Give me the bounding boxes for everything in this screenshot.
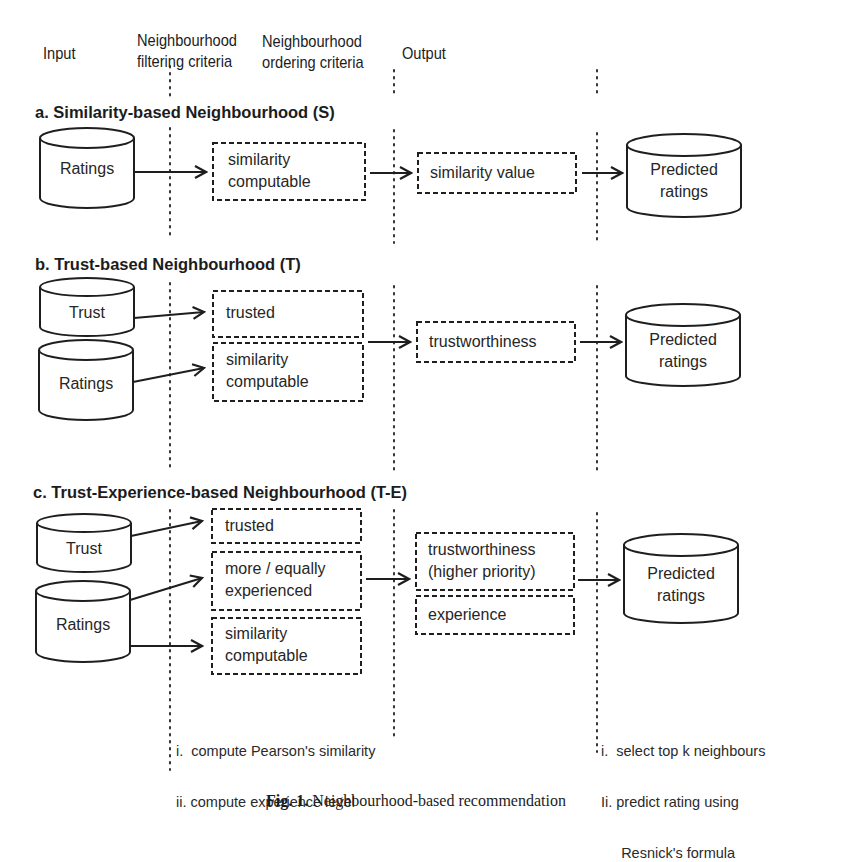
section-title-c: c. Trust-Experience-based Neighbourhood … [33,482,407,502]
output-line: Predicted [626,329,740,351]
column-header-filtering-line2: filtering criteria [137,51,237,72]
input-ratings-b: Ratings [39,373,133,395]
note-line: i. compute Pearson's similarity [176,743,375,760]
column-header-ordering-line2: ordering criteria [262,52,364,73]
note-line: Ii. predict rating using [601,794,765,811]
column-header-input: Input [43,43,76,64]
filter-trusted-c: trusted [225,515,274,537]
filter-similarity-computable-c: similarity computable [225,623,308,667]
filter-line: similarity [228,149,311,171]
output-line: ratings [626,351,740,373]
section-title-a: a. Similarity-based Neighbourhood (S) [35,102,335,122]
filter-line: similarity [226,349,309,371]
column-header-filtering-line1: Neighbourhood [137,30,237,51]
filter-line: similarity [225,623,308,645]
filter-trusted-b: trusted [226,302,275,324]
note-line: Resnick's formula [601,845,765,862]
ordering-line: (higher priority) [428,561,536,583]
filter-similarity-computable-a: similarity computable [228,149,311,193]
filter-line: computable [226,371,309,393]
input-ratings-a: Ratings [40,158,134,180]
input-ratings-c: Ratings [36,614,130,636]
ordering-experience-c: experience [428,604,506,626]
ordering-trustworthiness-b: trustworthiness [429,331,537,353]
input-trust-b: Trust [40,302,134,324]
column-header-ordering: Neighbourhood ordering criteria [262,31,364,73]
output-predicted-ratings-b: Predicted ratings [626,329,740,373]
figure-caption: Fig. 1. Neighbourhood-based recommendati… [266,792,566,810]
output-line: ratings [627,181,741,203]
output-line: ratings [624,585,738,607]
filter-similarity-computable-b: similarity computable [226,349,309,393]
output-notes: i. select top k neighbours Ii. predict r… [601,709,765,862]
figure-caption-text: Neighbourhood-based recommendation [312,792,566,809]
note-line: i. select top k neighbours [601,743,765,760]
ordering-trustworthiness-higher-priority-c: trustworthiness (higher priority) [428,539,536,583]
output-line: Predicted [627,159,741,181]
section-title-b: b. Trust-based Neighbourhood (T) [35,254,301,274]
column-header-filtering: Neighbourhood filtering criteria [137,30,237,72]
output-predicted-ratings-c: Predicted ratings [624,563,738,607]
filter-line: computable [228,171,311,193]
filtering-notes: i. compute Pearson's similarity ii. comp… [176,709,375,845]
filter-line: computable [225,645,308,667]
column-header-output: Output [402,43,446,64]
ordering-line: trustworthiness [428,539,536,561]
filter-line: experienced [225,580,326,602]
filter-line: more / equally [225,558,326,580]
output-predicted-ratings-a: Predicted ratings [627,159,741,203]
input-trust-c: Trust [37,538,131,560]
output-line: Predicted [624,563,738,585]
ordering-similarity-value-a: similarity value [430,162,535,184]
column-header-ordering-line1: Neighbourhood [262,31,364,52]
figure-caption-label: Fig. 1. [266,792,308,809]
filter-more-equally-experienced-c: more / equally experienced [225,558,326,602]
